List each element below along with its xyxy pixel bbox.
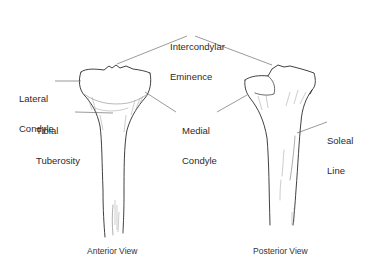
anterior-shading <box>88 96 143 232</box>
posterior-tibia <box>245 65 316 225</box>
label-medial-condyle: Medial Condyle <box>182 106 217 186</box>
caption-anterior-view: Anterior View <box>87 246 137 256</box>
posterior-shading <box>258 90 306 225</box>
label-tibial-tuberosity: Tibial Tuberosity <box>36 106 80 186</box>
leader-tibial-tuberosity <box>75 112 113 113</box>
tibia-diagram: Intercondylar Eminence Lateral Condyle T… <box>0 0 366 269</box>
label-soleal-line: Soleal Line <box>327 116 353 196</box>
leader-soleal-line <box>297 122 327 133</box>
caption-posterior-view: Posterior View <box>253 246 308 256</box>
label-intercondylar-eminence: Intercondylar Eminence <box>170 22 225 102</box>
